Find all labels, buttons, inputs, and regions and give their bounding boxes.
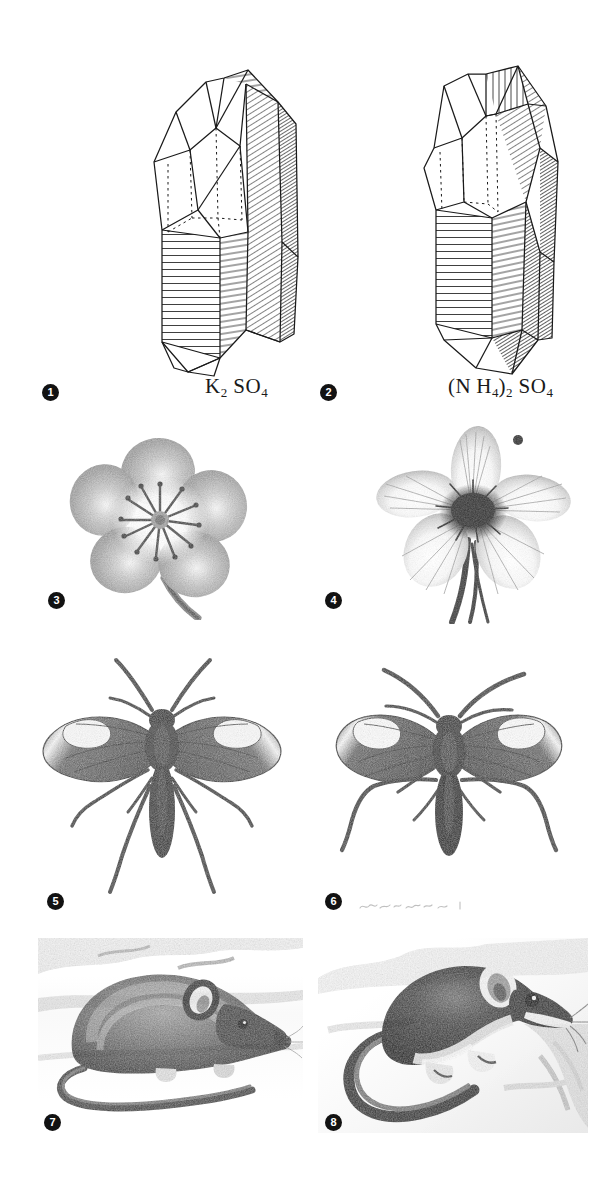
scientific-plate: K2 SO4	[0, 0, 615, 1181]
figure-number-3: 3	[48, 592, 65, 609]
figure-1-caption: K2 SO4	[205, 374, 268, 401]
figure-1-crystal	[128, 42, 318, 387]
figure-6-insect	[318, 652, 578, 892]
figure-number-8: 8	[325, 1114, 342, 1131]
figure-2-caption: (N H4)2 SO4	[448, 374, 553, 401]
figure-4-flower	[372, 424, 572, 624]
figure-7-mouse	[38, 938, 303, 1128]
figure-number-6: 6	[325, 893, 342, 910]
figure-number-2: 2	[320, 384, 337, 401]
figure-8-mouse	[318, 938, 588, 1133]
smudge-artifact	[356, 896, 466, 916]
figure-number-7: 7	[44, 1114, 61, 1131]
figure-number-1: 1	[42, 384, 59, 401]
figure-3-flower	[60, 428, 260, 620]
figure-2-crystal	[400, 52, 590, 392]
figure-number-4: 4	[325, 592, 342, 609]
figure-5-insect	[32, 650, 292, 900]
figure-number-5: 5	[47, 893, 64, 910]
